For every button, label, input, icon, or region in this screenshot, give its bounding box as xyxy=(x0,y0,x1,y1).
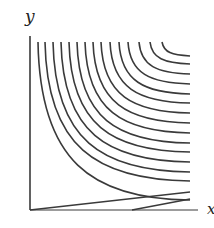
level-line xyxy=(30,192,190,210)
level-curve xyxy=(69,42,190,152)
level-curve xyxy=(85,42,190,133)
level-curves-figure: y x xyxy=(0,0,214,228)
contour-plot xyxy=(0,0,214,228)
level-curve xyxy=(162,42,190,56)
level-line xyxy=(132,199,190,210)
y-axis-label: y xyxy=(25,6,35,26)
x-axis-label: x xyxy=(207,200,214,218)
